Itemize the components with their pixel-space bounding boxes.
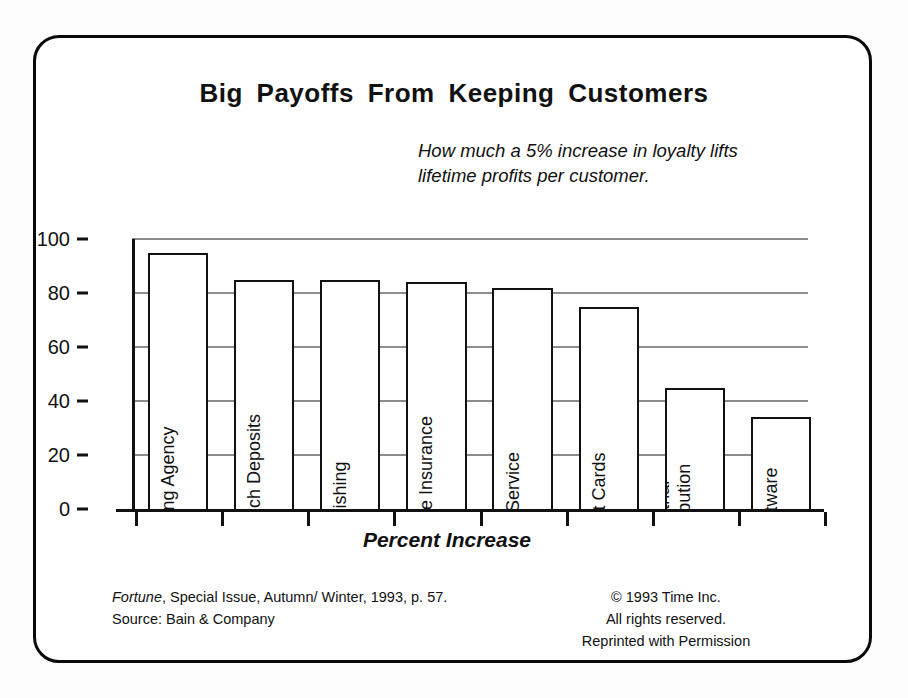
y-tick-mark-0 — [77, 508, 88, 511]
y-tick-mark-80 — [77, 292, 88, 295]
x-tick-mark — [738, 512, 741, 526]
x-tick-mark — [135, 512, 138, 526]
source-citation-rest: , Special Issue, Autumn/ Winter, 1993, p… — [162, 589, 447, 605]
chart-subtitle: How much a 5% increase in loyalty lifts … — [418, 138, 838, 188]
source-publication-name: Fortune — [112, 589, 162, 605]
x-tick-mark — [566, 512, 569, 526]
x-tick-mark — [824, 512, 827, 526]
bar-slot: Bank Branch Deposits — [234, 239, 294, 509]
source-citation-line: Fortune, Special Issue, Autumn/ Winter, … — [112, 586, 447, 608]
source-credit-line: Source: Bain & Company — [112, 608, 447, 630]
bar-label: Credit Cards — [590, 452, 609, 509]
plot-area: 020406080100 Advertising AgencyBank Bran… — [86, 228, 826, 528]
x-tick-mark — [307, 512, 310, 526]
bar-slot: Auto Service — [492, 239, 552, 509]
x-tick-mark — [393, 512, 396, 526]
chart-page: Big Payoffs From Keeping Customers How m… — [0, 0, 908, 698]
chart-subtitle-line-2: lifetime profits per customer. — [418, 163, 838, 188]
bar-slot: Software — [751, 239, 811, 509]
y-tick-mark-40 — [77, 400, 88, 403]
bar-publishing[interactable]: Publishing — [320, 280, 380, 510]
chart-title: Big Payoffs From Keeping Customers — [0, 78, 908, 109]
bar-label: Advertising Agency — [159, 426, 178, 509]
bar-advertising-agency[interactable]: Advertising Agency — [148, 253, 208, 510]
bar-slot: Advertising Agency — [148, 239, 208, 509]
y-tick-label-60: 60 — [48, 336, 70, 359]
x-tick-mark — [480, 512, 483, 526]
x-tick-mark — [221, 512, 224, 526]
y-tick-label-20: 20 — [48, 444, 70, 467]
bar-label: Bank Branch Deposits — [245, 414, 264, 509]
bar-auto-service[interactable]: Auto Service — [492, 288, 552, 509]
bar-label: Industrial Distribution — [665, 448, 695, 509]
y-tick-label-80: 80 — [48, 282, 70, 305]
bar-auto-home-insurance[interactable]: Auto/Home Insurance — [406, 282, 466, 509]
bar-label: Publishing — [331, 461, 350, 509]
y-tick-mark-60 — [77, 346, 88, 349]
bar-bank-branch-deposits[interactable]: Bank Branch Deposits — [234, 280, 294, 510]
rights-reserved-line: All rights reserved. — [536, 608, 796, 630]
bar-label: Auto/Home Insurance — [417, 416, 436, 509]
bars-group: Advertising AgencyBank Branch DepositsPu… — [135, 239, 824, 509]
bar-label: Software — [762, 467, 781, 509]
bar-software[interactable]: Software — [751, 417, 811, 509]
bar-credit-cards[interactable]: Credit Cards — [579, 307, 639, 510]
bar-industrial-distribution[interactable]: Industrial Distribution — [665, 388, 725, 510]
x-axis-title: Percent Increase — [86, 528, 808, 552]
y-tick-mark-20 — [77, 454, 88, 457]
bar-slot: Industrial Distribution — [665, 239, 725, 509]
chart-subtitle-line-1: How much a 5% increase in loyalty lifts — [418, 138, 838, 163]
bar-slot: Credit Cards — [579, 239, 639, 509]
bar-slot: Publishing — [320, 239, 380, 509]
y-tick-label-0: 0 — [59, 498, 70, 521]
y-tick-mark-100 — [77, 238, 88, 241]
copyright-line: © 1993 Time Inc. — [536, 586, 796, 608]
copyright-footer: © 1993 Time Inc. All rights reserved. Re… — [536, 586, 796, 652]
x-tick-mark — [652, 512, 655, 526]
y-tick-label-40: 40 — [48, 390, 70, 413]
source-footer: Fortune, Special Issue, Autumn/ Winter, … — [112, 586, 447, 630]
bar-slot: Auto/Home Insurance — [406, 239, 466, 509]
bar-label: Auto Service — [504, 452, 523, 509]
reprint-permission-line: Reprinted with Permission — [536, 630, 796, 652]
y-tick-label-100: 100 — [37, 228, 70, 251]
